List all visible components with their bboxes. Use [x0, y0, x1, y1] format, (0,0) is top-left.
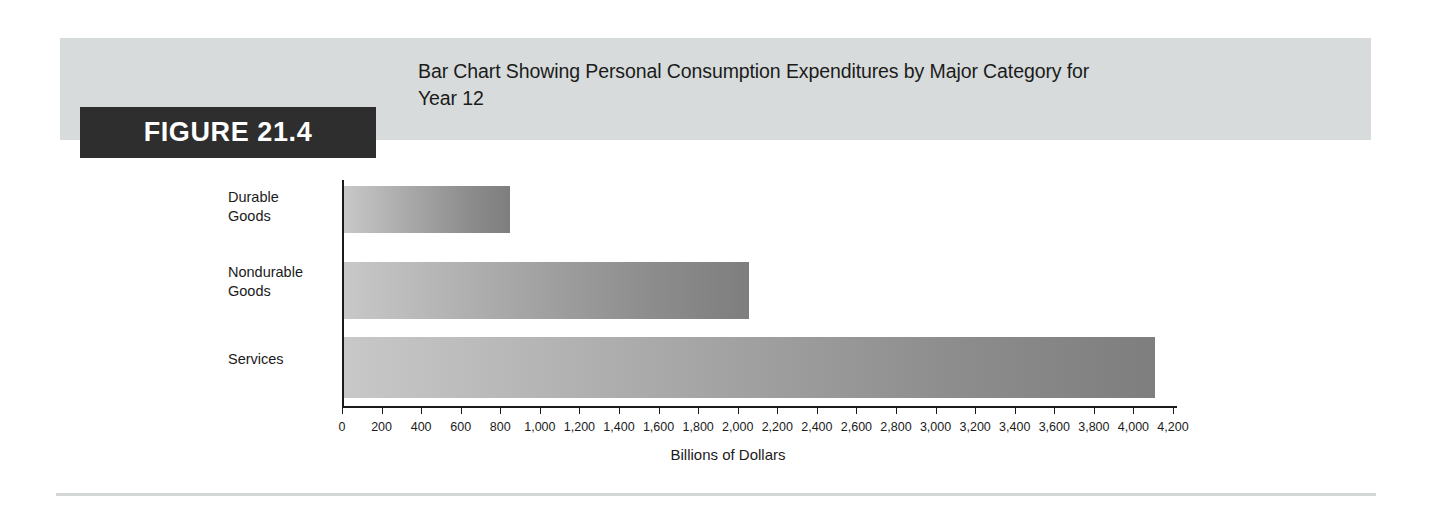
x-tick-mark: [1015, 407, 1016, 414]
x-axis-line: [342, 406, 1177, 408]
x-tick-mark: [540, 407, 541, 414]
x-tick-mark: [738, 407, 739, 414]
x-tick-label: 1,400: [603, 420, 634, 434]
x-axis-title-text: Billions of Dollars: [670, 446, 785, 463]
x-tick-label: 3,400: [999, 420, 1030, 434]
x-tick-label: 1,800: [683, 420, 714, 434]
x-tick-label: 2,200: [762, 420, 793, 434]
x-axis-title: Billions of Dollars: [0, 446, 1430, 463]
x-tick-mark: [421, 407, 422, 414]
x-tick-label: 200: [371, 420, 392, 434]
x-tick-mark: [936, 407, 937, 414]
x-tick-label: 2,800: [880, 420, 911, 434]
x-tick-mark: [659, 407, 660, 414]
x-tick-label: 0: [339, 420, 346, 434]
x-tick-label: 600: [450, 420, 471, 434]
x-tick-label: 3,000: [920, 420, 951, 434]
x-tick-mark: [619, 407, 620, 414]
category-label-line: Goods: [228, 207, 348, 226]
bottom-rule: [56, 493, 1376, 496]
x-tick-mark: [382, 407, 383, 414]
x-tick-mark: [500, 407, 501, 414]
x-tick-mark: [856, 407, 857, 414]
bar: [344, 186, 510, 233]
category-label-line: Durable: [228, 188, 348, 207]
x-tick-mark: [1173, 407, 1174, 414]
x-tick-label: 400: [411, 420, 432, 434]
x-tick-label: 3,600: [1039, 420, 1070, 434]
x-tick-mark: [975, 407, 976, 414]
x-tick-mark: [1133, 407, 1134, 414]
category-label-line: Services: [228, 350, 348, 369]
bar-chart: DurableGoodsNondurableGoodsServices 0200…: [0, 0, 1430, 519]
bar-fill: [344, 262, 749, 319]
x-tick-label: 1,600: [643, 420, 674, 434]
x-tick-mark: [896, 407, 897, 414]
x-tick-mark: [1094, 407, 1095, 414]
bar-fill: [344, 337, 1155, 398]
x-tick-label: 3,200: [960, 420, 991, 434]
x-tick-mark: [579, 407, 580, 414]
bar-fill: [344, 186, 510, 233]
x-tick-label: 3,800: [1078, 420, 1109, 434]
category-label: DurableGoods: [228, 188, 348, 226]
x-tick-label: 2,600: [841, 420, 872, 434]
x-tick-label: 4,200: [1157, 420, 1188, 434]
category-label: NondurableGoods: [228, 263, 348, 301]
x-tick-mark: [342, 407, 343, 414]
x-tick-label: 1,200: [564, 420, 595, 434]
x-tick-mark: [817, 407, 818, 414]
x-tick-label: 4,000: [1118, 420, 1149, 434]
x-tick-mark: [777, 407, 778, 414]
bar: [344, 337, 1155, 398]
x-tick-mark: [1054, 407, 1055, 414]
category-label: Services: [228, 350, 348, 369]
x-tick-mark: [698, 407, 699, 414]
x-tick-label: 1,000: [524, 420, 555, 434]
x-tick-label: 800: [490, 420, 511, 434]
x-tick-label: 2,000: [722, 420, 753, 434]
x-tick-label: 2,400: [801, 420, 832, 434]
x-tick-mark: [461, 407, 462, 414]
bar: [344, 262, 749, 319]
category-label-line: Nondurable: [228, 263, 348, 282]
category-label-line: Goods: [228, 282, 348, 301]
